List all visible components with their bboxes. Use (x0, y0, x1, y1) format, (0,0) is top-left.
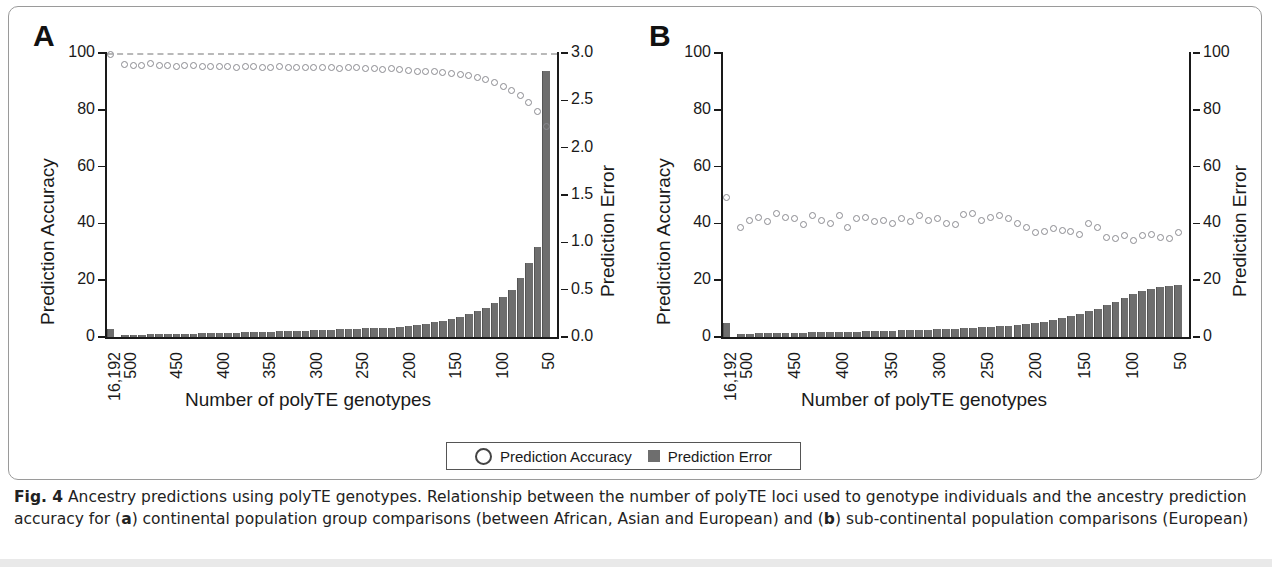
accuracy-point (880, 217, 887, 224)
axis-tick (714, 223, 721, 225)
accuracy-point (233, 64, 240, 71)
accuracy-point (871, 218, 878, 225)
accuracy-point (224, 63, 231, 70)
panel-a-y2-tick-label: 0.0 (571, 327, 621, 345)
panel-b-x-tick-label: 150 (1076, 352, 1094, 408)
error-bar (1058, 318, 1066, 337)
error-bar (924, 330, 932, 337)
accuracy-point (534, 108, 541, 115)
panel-a-x-tick-label: 300 (308, 352, 326, 408)
accuracy-point (199, 63, 206, 70)
accuracy-point (844, 224, 851, 231)
error-bar (224, 333, 232, 337)
panel-a-y2-tick-label: 1.0 (571, 232, 621, 250)
error-bar (808, 332, 816, 337)
axis-tick (714, 279, 721, 281)
panel-a-y-tick-label: 80 (47, 100, 95, 118)
error-bar (817, 332, 825, 337)
accuracy-point (242, 63, 249, 70)
axis-tick (561, 100, 568, 102)
accuracy-point (491, 79, 498, 86)
error-bar (1121, 298, 1129, 337)
accuracy-point (800, 221, 807, 228)
accuracy-point (302, 64, 309, 71)
accuracy-point (285, 64, 292, 71)
panel-b-y2-tick-label: 20 (1203, 270, 1253, 288)
accuracy-point (525, 99, 532, 106)
accuracy-point (379, 66, 386, 73)
panel-a-right-axis-line (557, 52, 559, 338)
axis-tick (98, 166, 105, 168)
accuracy-point (1059, 227, 1066, 234)
error-bar (465, 314, 473, 337)
accuracy-point (1121, 232, 1128, 239)
error-bar (456, 317, 464, 337)
panel-a-x-tick-label: 250 (354, 352, 372, 408)
error-bar (276, 331, 284, 337)
accuracy-point (737, 224, 744, 231)
accuracy-point (996, 212, 1003, 219)
accuracy-point (934, 215, 941, 222)
error-bar (960, 328, 968, 337)
panel-b-right-axis-line (1189, 52, 1191, 338)
error-bar (1156, 287, 1164, 337)
error-bar (405, 326, 413, 337)
panel-a-x-tick-label: 50 (540, 352, 558, 408)
error-bar (844, 332, 852, 337)
panel-b-x-tick-label: 300 (931, 352, 949, 408)
error-bar (207, 333, 215, 337)
error-bar (155, 334, 163, 337)
error-bar (198, 333, 206, 337)
axis-tick (1193, 52, 1200, 54)
error-bar (439, 321, 447, 337)
accuracy-point (405, 67, 412, 74)
panel-b-x-tick-label: 50 (1172, 352, 1190, 408)
error-bar (413, 325, 421, 337)
error-bar (362, 328, 370, 337)
error-bar (871, 331, 879, 337)
error-bar (345, 329, 353, 337)
panel-a-y2-tick-label: 2.5 (571, 90, 621, 108)
figure-legend: Prediction Accuracy Prediction Error (446, 442, 801, 470)
accuracy-point (138, 62, 145, 69)
accuracy-point (130, 62, 137, 69)
error-bar (906, 330, 914, 337)
panel-a-x-tick-label: 450 (168, 352, 186, 408)
accuracy-point (1067, 228, 1074, 235)
accuracy-point (422, 68, 429, 75)
panel-a-y2-tick-label: 2.0 (571, 138, 621, 156)
error-bar (1129, 294, 1137, 337)
panel-b-y2-tick-label: 100 (1203, 43, 1253, 61)
error-bar (915, 330, 923, 337)
error-bar (138, 335, 146, 337)
accuracy-point (723, 194, 730, 201)
accuracy-point (293, 64, 300, 71)
error-bar (1174, 285, 1182, 337)
accuracy-point (328, 64, 335, 71)
error-bar (327, 330, 335, 337)
error-bar (1022, 324, 1030, 337)
accuracy-point (508, 87, 515, 94)
error-bar (987, 327, 995, 337)
panel-b-x-tick-label: 250 (979, 352, 997, 408)
error-bar (942, 329, 950, 337)
axis-tick (561, 147, 568, 149)
error-bar (267, 332, 275, 337)
accuracy-point (107, 51, 114, 58)
error-bar (1138, 291, 1146, 337)
error-bar (755, 333, 763, 337)
error-bar (1067, 316, 1075, 337)
error-bar (826, 332, 834, 337)
axis-tick (561, 194, 568, 196)
axis-tick (1193, 279, 1200, 281)
panel-b-y-tick-label: 40 (663, 213, 711, 231)
accuracy-point (773, 210, 780, 217)
error-bar (1031, 323, 1039, 337)
accuracy-point (362, 65, 369, 72)
figure-card: A Prediction Accuracy Prediction Error N… (8, 6, 1262, 480)
error-bar (499, 297, 507, 337)
axis-tick (98, 52, 105, 54)
error-bar (746, 334, 754, 337)
error-bar (336, 329, 344, 337)
panel-b-y-tick-label: 20 (663, 270, 711, 288)
